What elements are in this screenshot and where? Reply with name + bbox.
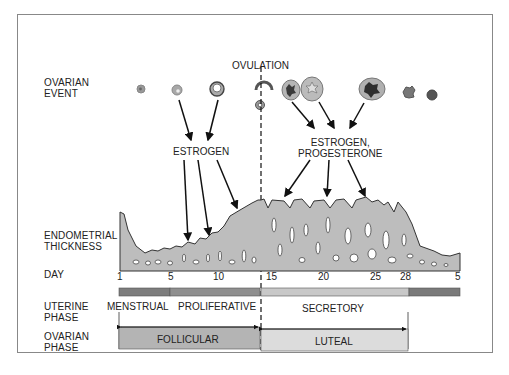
uterine-phase-menstrual: MENSTRUAL xyxy=(107,301,169,312)
uterine-phase-secretory: SECRETORY xyxy=(302,303,364,314)
bar-menstrual-next xyxy=(409,288,460,296)
ovarian-phase-follicular: FOLLICULAR xyxy=(157,334,219,345)
ovarian-phase-luteal: LUTEAL xyxy=(315,336,353,347)
estrogen-label: ESTROGEN xyxy=(173,146,229,157)
day-tick: 10 xyxy=(213,271,224,282)
follicle-icons xyxy=(137,77,437,110)
day-tick: 25 xyxy=(370,271,381,282)
ovulation-label: OVULATION xyxy=(232,60,289,71)
day-tick: 5 xyxy=(168,271,174,282)
diagram-graphics xyxy=(0,0,509,375)
uterine-phase-proliferative: PROLIFERATIVE xyxy=(178,301,256,312)
estrogen-progesterone-label: ESTROGEN, PROGESTERONE xyxy=(298,137,382,159)
bar-secretory xyxy=(261,288,409,296)
day-tick: 20 xyxy=(318,271,329,282)
bar-menstrual xyxy=(119,288,170,296)
day-tick: 28 xyxy=(400,271,411,282)
endometrium-profile xyxy=(120,197,460,271)
day-tick: 15 xyxy=(266,271,277,282)
day-tick: 5 xyxy=(455,271,461,282)
bar-proliferative xyxy=(170,288,260,296)
day-tick: 1 xyxy=(117,271,123,282)
